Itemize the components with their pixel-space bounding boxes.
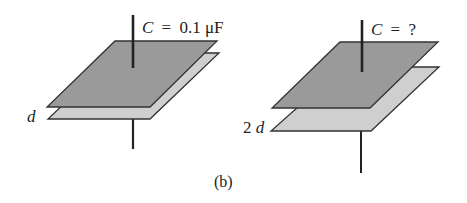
left-capacitance-label: C = 0.1 μF [142, 18, 224, 37]
right-capacitance-label: C = ? [371, 20, 416, 39]
left-separation-label: d [27, 107, 36, 126]
panel-label: (b) [214, 173, 233, 191]
capacitor-diagram: C = 0.1 μF d C = ? 2 d (b) [0, 0, 467, 203]
left-capacitor: C = 0.1 μF d [27, 15, 224, 149]
right-capacitor: C = ? 2 d [243, 20, 439, 173]
right-separation-label: 2 d [243, 118, 265, 137]
